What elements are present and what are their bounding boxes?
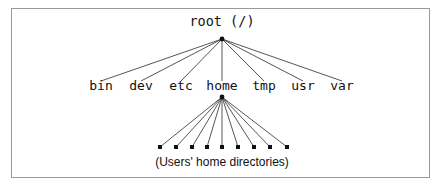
tree-node-label-home: home	[206, 78, 237, 93]
tree-edge-root-to-bin	[101, 39, 222, 81]
tree-node-label-var: var	[330, 78, 354, 93]
tree-edge-home-to-user-2	[176, 97, 222, 147]
user-home-leaf-node-2	[174, 145, 178, 149]
user-home-leaf-node-7	[252, 145, 256, 149]
tree-edge-home-to-user-9	[222, 97, 287, 147]
tree-node-label-usr: usr	[291, 78, 315, 93]
tree-node-label-etc: etc	[169, 78, 192, 93]
user-home-leaf-node-9	[285, 145, 289, 149]
root-node-vertex	[220, 37, 225, 42]
tree-edge-root-to-dev	[141, 39, 222, 81]
tree-edge-home-to-user-1	[160, 97, 222, 147]
level1-label-group: bindevetchometmpusrvar	[89, 78, 354, 93]
user-home-leaf-node-5	[220, 145, 224, 149]
home-leaf-node-group	[158, 145, 289, 149]
home-edge-group	[160, 97, 287, 147]
home-directories-caption: (Users' home directories)	[155, 155, 289, 169]
user-home-leaf-node-3	[190, 145, 194, 149]
tree-node-label-bin: bin	[89, 78, 112, 93]
home-node-vertex	[220, 95, 225, 100]
user-home-leaf-node-4	[205, 145, 209, 149]
tree-edge-home-to-user-6	[222, 97, 238, 147]
root-edge-group	[101, 39, 342, 81]
tree-edge-root-to-tmp	[222, 39, 264, 81]
filesystem-tree-diagram: root (/) bindevetchometmpusrvar (Users' …	[0, 0, 445, 190]
user-home-leaf-node-8	[268, 145, 272, 149]
tree-edge-home-to-user-3	[192, 97, 222, 147]
user-home-leaf-node-1	[158, 145, 162, 149]
tree-edge-home-to-user-8	[222, 97, 270, 147]
user-home-leaf-node-6	[236, 145, 240, 149]
tree-edge-root-to-etc	[181, 39, 222, 81]
diagram-page: root (/) bindevetchometmpusrvar (Users' …	[0, 0, 445, 190]
tree-node-label-dev: dev	[129, 78, 153, 93]
tree-edge-root-to-var	[222, 39, 342, 81]
root-node-label: root (/)	[189, 13, 254, 29]
tree-edge-root-to-usr	[222, 39, 303, 81]
tree-edge-home-to-user-4	[207, 97, 222, 147]
tree-edge-home-to-user-7	[222, 97, 254, 147]
tree-node-label-tmp: tmp	[252, 78, 276, 93]
